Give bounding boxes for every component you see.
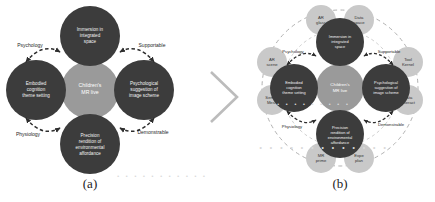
panel-b-diagram: AR glass Data space AR scene Sensor Mesh…: [245, 0, 435, 202]
node-bottom-a-line-3: affordance: [79, 151, 101, 156]
node-bottom-b-line-3: affordance: [331, 140, 349, 145]
node-left-b-line-2: theme setting: [282, 90, 305, 95]
node-top-a-line-1: integrated: [80, 33, 101, 38]
arrow-bottom-left-a[interactable]: [26, 118, 60, 131]
node-left-a-line-0: Embodied: [26, 81, 47, 86]
chevron-right-icon: [203, 66, 245, 128]
arrow-label-demonstrable-a: Demonstrable: [137, 129, 168, 135]
node-bottom-a[interactable]: [60, 114, 120, 174]
arrow-bottom-left-b[interactable]: [287, 111, 316, 123]
arrow-label-supportable-b: Supportable: [378, 49, 401, 54]
panel-a-diagram: Children's MR live Immersion in integrat…: [0, 0, 200, 202]
panel-a: Children's MR live Immersion in integrat…: [0, 0, 200, 202]
node-right-a-line-0: Psychological: [130, 81, 158, 86]
arrow-top-right-b[interactable]: [364, 53, 393, 65]
satellite-bottom-left-line-1: prime: [316, 158, 327, 163]
node-right-a-line-2: image scheme: [129, 93, 159, 98]
arrow-label-psychology-b: Psychology: [282, 49, 304, 54]
center-node-a-line-0: Children's: [79, 82, 102, 88]
arrow-bottom-right-b[interactable]: [364, 111, 393, 123]
node-right-b-line-2: image scheme: [373, 90, 398, 95]
center-node-b-line-1: MR live: [333, 88, 348, 93]
node-top-a-line-0: Immersion in: [77, 27, 104, 32]
node-top-b-line-2: space: [335, 44, 345, 49]
arrow-label-supportable-a: Supportable: [139, 42, 166, 48]
node-right-a-line-1: suggestion of: [130, 87, 158, 92]
node-left-a-line-2: theme setting: [22, 93, 50, 98]
node-bottom-a-line-1: rendition of: [79, 139, 102, 144]
arrow-label-physiology-b: Physiology: [282, 124, 303, 129]
arrow-label-psychology-a: Psychology: [17, 42, 43, 48]
satellite-right-upper-line-1: Kernel: [402, 62, 414, 67]
satellite-left-upper-line-1: scene: [266, 62, 278, 67]
arrow-label-demonstrable-b: Demonstrable: [378, 122, 405, 127]
panel-a-caption: (a): [0, 176, 180, 192]
center-node-b-line-0: Children's: [330, 82, 350, 87]
arrow-label-physiology-a: Physiology: [16, 131, 41, 137]
center-node-a-line-1: MR live: [81, 89, 98, 95]
node-bottom-a-line-2: environmental: [76, 145, 105, 150]
arrow-top-right-a[interactable]: [120, 49, 154, 62]
node-top-a-line-2: space: [84, 39, 97, 44]
panel-b-caption: (b): [245, 176, 435, 192]
node-left-a-line-1: cognition: [27, 87, 46, 92]
panel-b: AR glass Data space AR scene Sensor Mesh…: [245, 0, 435, 202]
arrow-top-left-a[interactable]: [26, 49, 60, 62]
satellite-bottom-right-line-1: plan: [355, 158, 364, 163]
figure-root: Children's MR live Immersion in integrat…: [0, 0, 435, 202]
arrow-top-left-b[interactable]: [287, 53, 316, 65]
node-bottom-a-line-0: Precision: [81, 133, 100, 138]
